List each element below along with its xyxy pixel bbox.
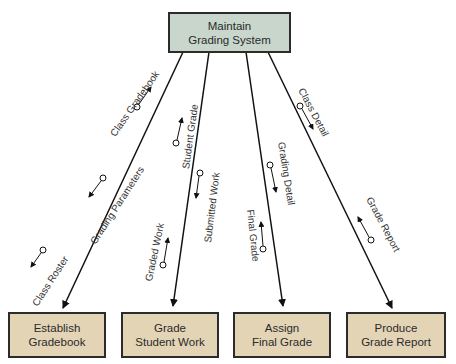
- module-label-line1: Assign: [265, 321, 300, 335]
- couple-grading-parameters: [89, 175, 106, 197]
- module-grade-student-work: Grade Student Work: [121, 312, 219, 358]
- couple-submitted-work: [196, 170, 203, 198]
- couple-grade-report: [358, 217, 374, 243]
- module-produce-grade-report: Produce Grade Report: [346, 312, 446, 358]
- call-line-establish: [63, 52, 183, 308]
- module-label-line2: Grading System: [188, 33, 270, 47]
- module-label-line1: Maintain: [208, 19, 251, 33]
- connector-lines: [0, 0, 456, 364]
- module-label-line1: Establish: [34, 321, 81, 335]
- couple-final-grade: [260, 222, 266, 252]
- module-label-line2: Final Grade: [252, 335, 312, 349]
- module-label-line1: Produce: [375, 321, 418, 335]
- call-line-grade-work: [173, 52, 209, 306]
- module-label-line2: Grade Report: [361, 335, 431, 349]
- module-label-line2: Gradebook: [29, 335, 86, 349]
- couple-grading-detail: [267, 162, 276, 192]
- couple-student-grade: [173, 118, 182, 146]
- couple-class-roster: [31, 247, 46, 267]
- module-maintain-grading-system: Maintain Grading System: [168, 12, 291, 53]
- call-line-assign: [246, 52, 283, 306]
- module-assign-final-grade: Assign Final Grade: [233, 312, 331, 358]
- module-label-line1: Grade: [154, 321, 186, 335]
- module-establish-gradebook: Establish Gradebook: [8, 312, 106, 358]
- module-label-line2: Student Work: [135, 335, 204, 349]
